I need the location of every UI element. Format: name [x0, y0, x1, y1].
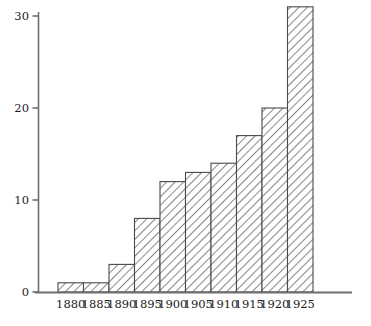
x-axis-tick-labels: 1880188518901895190019051910191519201925 — [56, 297, 315, 311]
y-tick-label: 10 — [14, 193, 29, 207]
histogram-chart: 0102030 18801885189018951900190519101915… — [0, 0, 371, 326]
bar — [135, 218, 161, 292]
bar — [160, 182, 186, 292]
x-tick-label: 1925 — [286, 297, 315, 311]
bar — [237, 136, 263, 292]
bar — [109, 264, 135, 292]
bar — [84, 283, 110, 292]
y-tick-label: 0 — [22, 285, 29, 299]
bar — [211, 163, 237, 292]
bar — [262, 108, 288, 292]
y-tick-label: 30 — [14, 9, 29, 23]
chart-canvas: 0102030 18801885189018951900190519101915… — [0, 0, 371, 326]
bar — [186, 172, 212, 292]
bar — [58, 283, 84, 292]
bar — [288, 7, 314, 292]
y-tick-label: 20 — [14, 101, 29, 115]
